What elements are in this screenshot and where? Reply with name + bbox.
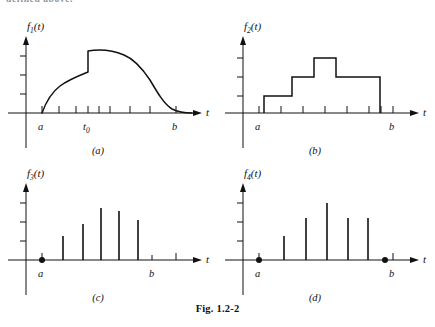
- cut-off-page-header: defined above.: [6, 0, 73, 2]
- panel-c-y-label: f3(t): [27, 167, 45, 182]
- panel-b-x-axis: [225, 106, 419, 116]
- panel-b: f2(t) t a b (b): [217, 18, 435, 158]
- panel-d: f4(t) t a b (d): [217, 165, 435, 305]
- panel-c-endpoint-dot-a: [39, 257, 45, 263]
- panel-c: f3(t) t a b (c): [0, 165, 218, 305]
- panel-d-x-axis: [225, 253, 419, 263]
- panel-c-x-axis: [8, 253, 202, 263]
- panel-b-tick-b: b: [389, 121, 394, 132]
- panel-b-y-label: f2(t): [244, 20, 262, 35]
- figure-page: defined above.: [0, 0, 435, 327]
- figure-caption: Fig. 1.2-2: [0, 303, 435, 314]
- panel-a-letter: (a): [92, 145, 105, 157]
- panel-d-x-label: t: [423, 253, 427, 265]
- panel-d-stems: [284, 203, 368, 260]
- panel-d-tick-b: b: [389, 268, 394, 279]
- panel-b-x-label: t: [423, 106, 427, 118]
- panel-b-tick-a: a: [255, 121, 260, 132]
- panel-a-x-label: t: [206, 106, 210, 118]
- panel-c-stems: [63, 208, 138, 260]
- panel-a-tick-a: a: [38, 121, 43, 132]
- panel-c-tick-b: b: [149, 268, 154, 279]
- panel-d-endpoint-dot-b: [382, 257, 388, 263]
- panel-c-tick-a: a: [38, 268, 43, 279]
- panel-b-letter: (b): [309, 145, 322, 157]
- panel-a-tick-b: b: [172, 121, 177, 132]
- panel-c-x-label: t: [206, 253, 210, 265]
- panel-a-y-label: f1(t): [27, 20, 45, 35]
- panel-d-endpoint-dot-a: [256, 257, 262, 263]
- panel-a-y-axis: [20, 36, 29, 148]
- panel-d-y-axis: [237, 183, 246, 295]
- panel-b-staircase: [264, 58, 380, 113]
- panel-d-tick-a: a: [255, 268, 260, 279]
- panel-b-y-axis: [237, 36, 246, 148]
- panel-a-signal-curve: [42, 50, 192, 113]
- panel-c-y-axis: [20, 183, 29, 295]
- panel-d-y-label: f4(t): [244, 167, 262, 182]
- panel-a: f1(t) t a t0 b (a): [0, 18, 218, 158]
- panel-a-tick-t0: t0: [83, 121, 90, 135]
- panel-a-x-axis: [8, 106, 202, 116]
